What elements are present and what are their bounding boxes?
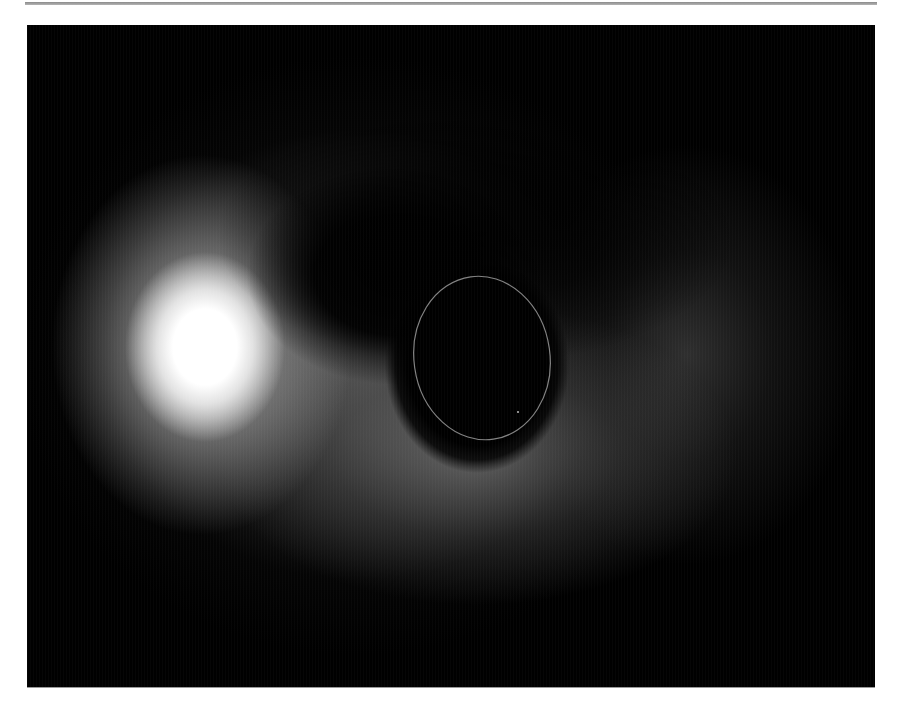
top-rule — [25, 2, 877, 5]
photon-ring — [403, 267, 561, 448]
black-hole-image — [27, 25, 875, 687]
ring-speck — [517, 411, 519, 413]
photon-ring-svg — [27, 25, 875, 687]
